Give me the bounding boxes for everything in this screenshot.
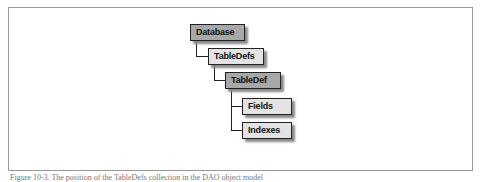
- node-tabledef: TableDef: [225, 72, 281, 89]
- node-fields: Fields: [242, 98, 292, 115]
- node-tabledefs: TableDefs: [208, 48, 264, 65]
- figure-caption: Figure 10-3. The position of the TableDe…: [10, 173, 263, 182]
- node-database: Database: [190, 24, 245, 41]
- node-indexes: Indexes: [242, 122, 292, 139]
